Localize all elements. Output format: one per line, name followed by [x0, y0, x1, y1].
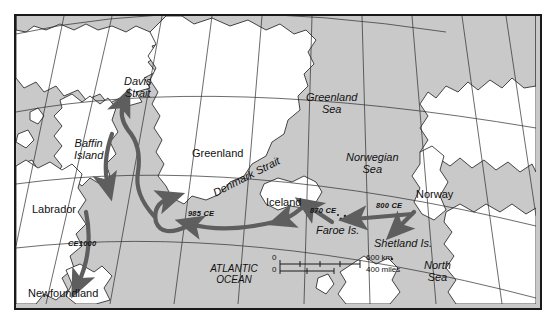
label-atlantic-ocean: ATLANTIC OCEAN: [196, 264, 272, 285]
scale-miles-end: 400 miles: [366, 266, 400, 274]
label-davis-strait: Davis Strait: [124, 76, 152, 99]
label-atlantic-ocean-line1: ATLANTIC: [210, 263, 258, 274]
label-norwegian-sea-line1: Norwegian: [346, 151, 399, 163]
label-shetland-islands: Shetland Is.: [374, 238, 432, 250]
label-faroe-islands: Faroe Is.: [316, 225, 359, 237]
label-greenland-sea-line1: Greenland: [306, 91, 357, 103]
label-north-sea-line2: Sea: [428, 271, 448, 283]
label-newfoundland: Newfoundland: [28, 288, 98, 300]
scale-km-start: 0: [272, 254, 276, 262]
label-norwegian-sea-line2: Sea: [363, 163, 383, 175]
label-norway: Norway: [416, 189, 453, 201]
label-labrador: Labrador: [32, 204, 76, 216]
route-date-faroe-shetland: 800 CE: [376, 202, 402, 210]
label-davis-strait-line2: Strait: [125, 87, 151, 99]
map-figure: Davis Strait Baffin Island Greenland Gre…: [0, 0, 555, 322]
label-baffin-island: Baffin Island: [74, 138, 103, 161]
label-north-sea: North Sea: [424, 260, 451, 283]
map-frame: Davis Strait Baffin Island Greenland Gre…: [14, 14, 542, 310]
label-atlantic-ocean-line2: OCEAN: [216, 274, 252, 285]
route-date-newfoundland: CE1000: [68, 240, 96, 248]
label-baffin-island-line2: Island: [74, 149, 103, 161]
label-north-sea-line1: North: [424, 259, 451, 271]
label-greenland-sea-line2: Sea: [322, 103, 342, 115]
scale-km-end: 600 km: [366, 254, 392, 262]
label-greenland-sea: Greenland Sea: [306, 92, 357, 115]
label-baffin-island-line1: Baffin: [75, 137, 103, 149]
label-norwegian-sea: Norwegian Sea: [346, 152, 399, 175]
scale-miles-start: 0: [272, 266, 276, 274]
label-iceland: Iceland: [266, 197, 301, 209]
label-davis-strait-line1: Davis: [124, 75, 152, 87]
route-date-greenland: 985 CE: [188, 210, 214, 218]
label-greenland: Greenland: [192, 148, 243, 160]
route-date-iceland: 870 CE: [310, 207, 336, 215]
